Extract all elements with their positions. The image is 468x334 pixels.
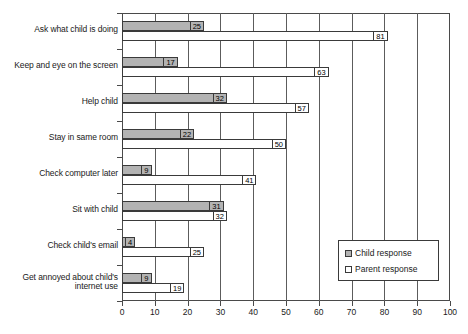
category-label: Stay in same room — [6, 133, 118, 143]
bar-value-label: 17 — [163, 57, 177, 67]
x-axis-tick — [286, 301, 287, 306]
category-label: Sit with child — [6, 205, 118, 215]
y-axis-tick — [117, 49, 122, 50]
legend-swatch-child-icon — [345, 250, 352, 257]
x-axis-tick-label: 100 — [437, 307, 463, 317]
x-axis-tick — [319, 301, 320, 306]
category-label: Keep and eye on the screen — [6, 61, 118, 71]
bar-child: 9 — [122, 273, 152, 283]
bar-value-label: 32 — [213, 211, 227, 221]
y-axis-tick — [117, 13, 122, 14]
y-axis-tick — [117, 193, 122, 194]
category-label: Check child's email — [6, 241, 118, 251]
bar-value-label: 63 — [314, 67, 328, 77]
x-axis-tick — [253, 301, 254, 306]
category-label: Help child — [6, 97, 118, 107]
bar-value-label: 81 — [373, 31, 387, 41]
x-axis-tick — [188, 301, 189, 306]
bar-value-label: 57 — [295, 103, 309, 113]
bar-value-label: 22 — [180, 129, 194, 139]
bar-child: 32 — [122, 93, 227, 103]
legend-swatch-parent-icon — [345, 266, 352, 273]
gridline — [286, 13, 287, 301]
legend-item-parent: Parent response — [345, 261, 438, 277]
gridline — [319, 13, 320, 301]
bar-value-label: 31 — [209, 201, 223, 211]
x-axis-tick — [417, 301, 418, 306]
gridline — [220, 13, 221, 301]
y-axis-tick — [117, 85, 122, 86]
x-axis-tick-label: 40 — [240, 307, 266, 317]
bar-child: 17 — [122, 57, 178, 67]
x-axis-tick-label: 70 — [339, 307, 365, 317]
gridline — [253, 13, 254, 301]
gridline — [188, 13, 189, 301]
x-axis-tick — [122, 301, 123, 306]
bar-value-label: 9 — [141, 165, 151, 175]
bar-parent: 41 — [122, 175, 256, 185]
x-axis-tick — [384, 301, 385, 306]
bar-parent: 50 — [122, 139, 286, 149]
x-axis-tick-label: 60 — [306, 307, 332, 317]
bar-value-label: 4 — [125, 237, 135, 247]
bar-value-label: 32 — [213, 93, 227, 103]
bar-value-label: 25 — [190, 21, 204, 31]
y-axis-tick — [117, 157, 122, 158]
y-axis-tick — [117, 121, 122, 122]
bar-value-label: 50 — [272, 139, 286, 149]
bar-value-label: 41 — [242, 175, 256, 185]
chart-legend: Child response Parent response — [338, 240, 439, 281]
x-axis-tick-label: 50 — [273, 307, 299, 317]
bar-chart: Ask what child is doingKeep and eye on t… — [0, 0, 468, 334]
y-axis-tick — [117, 265, 122, 266]
bar-child: 31 — [122, 201, 224, 211]
x-axis-tick-label: 10 — [142, 307, 168, 317]
x-axis-tick-label: 30 — [207, 307, 233, 317]
x-axis-tick — [220, 301, 221, 306]
legend-label-parent: Parent response — [355, 264, 417, 274]
category-label: Ask what child is doing — [6, 25, 118, 35]
bar-value-label: 9 — [141, 273, 151, 283]
bar-value-label: 25 — [190, 247, 204, 257]
x-axis-tick — [352, 301, 353, 306]
x-axis-tick-label: 20 — [175, 307, 201, 317]
bar-parent: 25 — [122, 247, 204, 257]
bar-child: 22 — [122, 129, 194, 139]
x-axis-tick — [155, 301, 156, 306]
legend-label-child: Child response — [355, 248, 412, 258]
bar-child: 4 — [122, 237, 135, 247]
bar-child: 9 — [122, 165, 152, 175]
bar-parent: 63 — [122, 67, 329, 77]
x-axis-tick — [450, 301, 451, 306]
bar-parent: 19 — [122, 283, 184, 293]
bar-parent: 57 — [122, 103, 309, 113]
bar-value-label: 19 — [170, 283, 184, 293]
bar-parent: 32 — [122, 211, 227, 221]
category-label: Get annoyed about child's internet use — [6, 273, 118, 292]
x-axis-tick-label: 80 — [371, 307, 397, 317]
bar-child: 25 — [122, 21, 204, 31]
category-label: Check computer later — [6, 169, 118, 179]
legend-item-child: Child response — [345, 245, 438, 261]
y-axis-tick — [117, 229, 122, 230]
bar-parent: 81 — [122, 31, 388, 41]
x-axis-tick-label: 0 — [109, 307, 135, 317]
x-axis-tick-label: 90 — [404, 307, 430, 317]
